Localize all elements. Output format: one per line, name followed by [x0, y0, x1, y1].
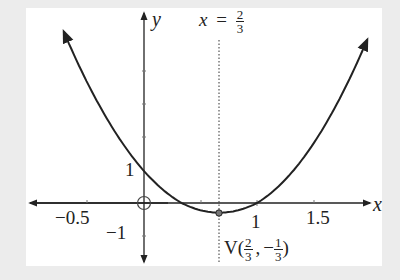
symmetry-x: x	[199, 9, 207, 30]
vertex-num2: 1	[274, 236, 283, 250]
vertex-label: V(23,−13)	[224, 236, 289, 263]
parabola-curve	[64, 32, 367, 213]
vertex-den1: 3	[244, 250, 253, 263]
tick-label-neg-one-y: −1	[106, 223, 126, 242]
x-axis-label: x	[373, 194, 382, 214]
tick-label-one-half: 1.5	[306, 208, 330, 227]
symmetry-fraction: 2 3	[236, 8, 245, 35]
vertex-den2: 3	[274, 250, 283, 263]
vertex-num1: 2	[244, 236, 253, 250]
y-axis-label: y	[152, 9, 161, 29]
vertex-frac-x: 23	[244, 236, 253, 263]
symmetry-num: 2	[236, 8, 245, 22]
tick-label-neg-half: −0.5	[55, 208, 89, 227]
symmetry-den: 3	[236, 22, 245, 35]
vertex-minus: −	[263, 237, 274, 258]
vertex-comma: ,	[256, 237, 261, 258]
symmetry-label: x = 2 3	[199, 8, 244, 35]
tick-label-one-x: 1	[251, 212, 261, 231]
vertex-V: V(	[224, 237, 244, 258]
symmetry-eq: =	[216, 9, 227, 30]
plot-svg	[0, 0, 400, 280]
tick-label-one-y: 1	[125, 160, 135, 179]
vertex-frac-y: 13	[274, 236, 283, 263]
vertex-point	[216, 210, 222, 216]
vertex-close: )	[283, 237, 289, 258]
